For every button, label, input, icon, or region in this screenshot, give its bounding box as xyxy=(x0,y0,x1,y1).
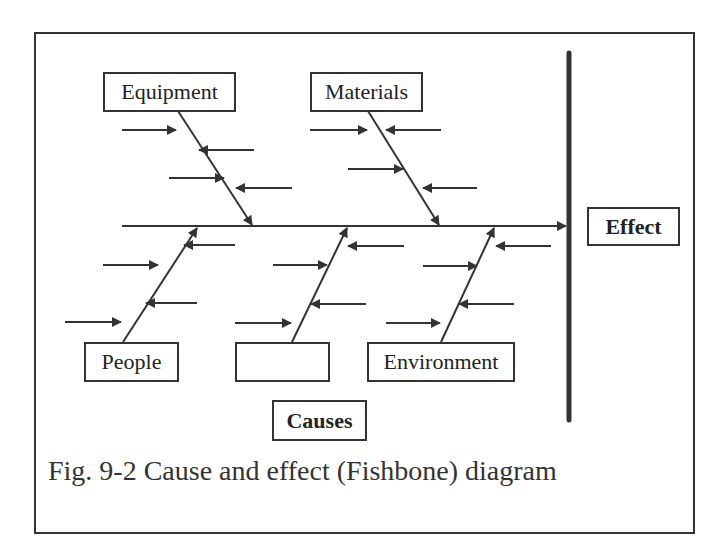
effect-box: Effect xyxy=(587,207,680,246)
causes-label: Causes xyxy=(286,410,352,432)
materials-bone xyxy=(310,111,477,225)
equipment-bone xyxy=(122,111,292,225)
category-environment-label: Environment xyxy=(384,351,499,373)
category-materials-label: Materials xyxy=(325,81,408,103)
category-environment-box: Environment xyxy=(367,342,515,382)
category-people-box: People xyxy=(84,342,179,382)
environment-bone xyxy=(386,228,551,342)
category-people-label: People xyxy=(102,351,162,373)
category-equipment-label: Equipment xyxy=(121,81,218,103)
effect-label: Effect xyxy=(605,216,661,238)
category-blank-box xyxy=(235,342,330,382)
category-materials-box: Materials xyxy=(310,72,423,112)
causes-box: Causes xyxy=(272,400,367,441)
category-equipment-box: Equipment xyxy=(103,72,236,112)
people-bone xyxy=(65,228,235,342)
blank-category-bone xyxy=(235,228,404,342)
figure-caption: Fig. 9-2 Cause and effect (Fishbone) dia… xyxy=(48,455,557,487)
